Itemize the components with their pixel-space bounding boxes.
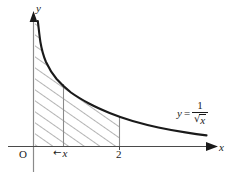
math-figure: O y x 2 ←x y = 1 √x — [0, 0, 232, 179]
y-axis-label: y — [36, 3, 41, 14]
curve-equation-label: y = 1 √x — [177, 100, 208, 126]
x-axis-label: x — [219, 142, 224, 153]
strip-variable-label: x — [62, 147, 67, 159]
radical-sign-icon: √ — [194, 114, 200, 124]
origin-label: O — [19, 149, 27, 160]
fraction-denominator: √x — [193, 113, 207, 126]
hatch-fill — [33, 18, 123, 148]
radicand-label: x — [199, 114, 206, 126]
equation-left-side: y — [177, 108, 182, 119]
left-arrow-icon: ← — [53, 147, 61, 158]
equation-fraction: 1 √x — [192, 100, 208, 126]
x-axis-arrowhead — [206, 142, 218, 151]
shaded-region — [33, 18, 123, 148]
strip-variable-annotation: ←x — [53, 148, 67, 159]
equation-equals-sign: = — [184, 108, 190, 119]
fraction-numerator: 1 — [195, 100, 205, 112]
x-tick-label-2: 2 — [116, 149, 122, 160]
